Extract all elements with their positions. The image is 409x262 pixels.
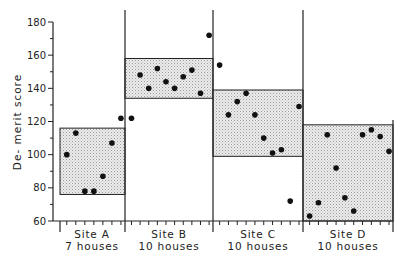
data-point: [226, 112, 232, 118]
data-point: [243, 91, 249, 97]
data-point: [287, 198, 293, 204]
data-point: [369, 127, 375, 133]
y-tick-label: 140: [27, 83, 46, 94]
range-box: [60, 128, 125, 194]
data-point: [198, 91, 204, 97]
y-tick-label: 60: [33, 216, 46, 227]
group-label-site-c: Site C: [240, 228, 276, 240]
data-point: [146, 86, 152, 92]
data-point: [172, 86, 178, 92]
y-tick-label: 120: [27, 116, 46, 127]
data-point: [206, 32, 212, 38]
y-tick-label: 180: [27, 17, 46, 28]
data-point: [234, 99, 240, 105]
group-label-site-a: Site A: [74, 228, 109, 240]
group-sublabel-site-d: 10 houses: [317, 240, 378, 252]
data-point: [64, 152, 70, 158]
group-sublabel-site-b: 10 houses: [138, 240, 199, 252]
data-point: [109, 140, 115, 146]
data-point: [189, 67, 195, 73]
data-point: [270, 150, 276, 156]
data-point: [180, 74, 186, 80]
data-point: [137, 72, 143, 78]
data-point: [163, 79, 169, 85]
group-label-site-b: Site B: [151, 228, 187, 240]
range-box: [213, 90, 303, 156]
data-point: [351, 208, 357, 214]
data-point: [316, 200, 322, 206]
data-point: [307, 213, 313, 219]
data-point: [91, 188, 97, 194]
demerit-score-chart: De- merit score 6080100120140160180 Site…: [0, 0, 409, 262]
y-tick-label: 100: [27, 149, 46, 160]
data-point: [386, 149, 392, 155]
data-point: [118, 115, 124, 121]
data-point: [261, 135, 267, 141]
data-point: [333, 165, 339, 171]
data-point: [360, 132, 366, 138]
data-point: [279, 147, 285, 153]
data-point: [217, 62, 223, 68]
data-point: [73, 130, 79, 136]
y-tick-label: 160: [27, 50, 46, 61]
data-point: [155, 66, 161, 72]
group-sublabel-site-c: 10 houses: [227, 240, 288, 252]
data-point: [100, 173, 106, 179]
range-box: [303, 125, 393, 221]
y-axis-label: De- merit score: [11, 74, 23, 170]
y-tick-label: 80: [33, 182, 46, 193]
data-point: [324, 132, 330, 138]
data-point: [377, 134, 383, 140]
y-axis: 6080100120140160180: [27, 17, 53, 227]
data-point: [252, 112, 258, 118]
data-point: [129, 115, 135, 121]
data-point: [82, 188, 88, 194]
data-point: [342, 195, 348, 201]
data-point: [296, 104, 302, 110]
group-label-site-d: Site D: [330, 228, 366, 240]
group-sublabel-site-a: 7 houses: [65, 240, 119, 252]
